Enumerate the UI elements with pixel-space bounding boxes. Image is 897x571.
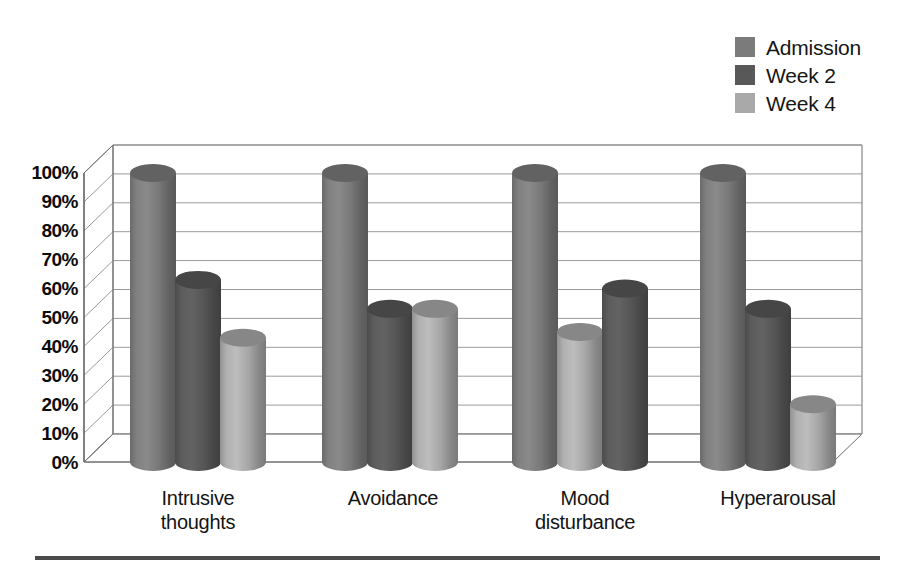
legend-label-admission: Admission <box>766 37 861 58</box>
bar-cylinder <box>745 300 791 471</box>
bar-cylinder <box>512 164 558 471</box>
legend-item-week-2: Week 2 <box>735 61 895 89</box>
legend-label-week-4: Week 4 <box>766 93 836 114</box>
chart-legend: Admission Week 2 Week 4 <box>735 33 895 117</box>
y-tick-label: 60% <box>0 279 78 298</box>
x-category-label-intrusive-thoughts: Intrusive thoughts <box>118 486 278 534</box>
y-tick-label: 20% <box>0 395 78 414</box>
bottom-divider-rule <box>35 556 880 560</box>
bar-cylinder <box>602 280 648 471</box>
y-tick-label: 70% <box>0 250 78 269</box>
legend-label-week-2: Week 2 <box>766 65 836 86</box>
y-axis-labels: 100% 90% 80% 70% 60% 50% 40% 30% 20% 10%… <box>0 0 78 571</box>
x-category-label-avoidance: Avoidance <box>313 486 473 510</box>
legend-item-admission: Admission <box>735 33 895 61</box>
x-category-label-mood-disturbance: Mood disturbance <box>500 486 670 534</box>
bar-cylinder <box>130 164 176 471</box>
y-tick-label: 10% <box>0 424 78 443</box>
y-tick-label: 0% <box>0 453 78 472</box>
y-tick-label: 90% <box>0 192 78 211</box>
bar-cylinder <box>322 164 368 471</box>
y-tick-label: 50% <box>0 308 78 327</box>
y-tick-label: 40% <box>0 337 78 356</box>
y-tick-label: 30% <box>0 366 78 385</box>
bar-cylinder <box>790 395 836 471</box>
bar-cylinder <box>220 329 266 471</box>
y-tick-label: 80% <box>0 221 78 240</box>
bar-cylinder <box>557 323 603 471</box>
legend-item-week-4: Week 4 <box>735 89 895 117</box>
legend-swatch-icon-week-4 <box>735 93 755 113</box>
bar-cylinder <box>700 164 746 471</box>
legend-swatch-icon-week-2 <box>735 65 755 85</box>
bar-cylinder <box>412 300 458 471</box>
bar-cylinder <box>367 300 413 471</box>
legend-swatch-icon-admission <box>735 37 755 57</box>
y-tick-label: 100% <box>0 163 78 182</box>
bar-cylinder <box>175 271 221 471</box>
chart-root: 100% 90% 80% 70% 60% 50% 40% 30% 20% 10%… <box>0 0 897 571</box>
x-category-label-hyperarousal: Hyperarousal <box>683 486 873 510</box>
